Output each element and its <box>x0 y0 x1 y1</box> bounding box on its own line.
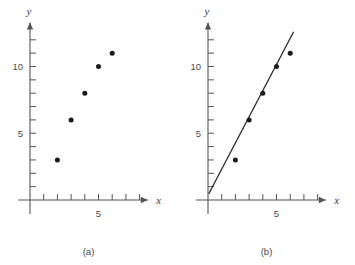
panel-b: 5510xy (b) <box>178 0 355 265</box>
regression-line <box>209 32 294 194</box>
y-axis-arrowhead <box>205 22 211 29</box>
data-point <box>69 117 74 122</box>
x-axis-label: x <box>155 194 161 206</box>
y-axis-label: y <box>204 5 210 17</box>
data-point <box>233 157 238 162</box>
plot-area-b: 5510xy <box>178 0 355 232</box>
y-tick-label: 5 <box>196 128 201 139</box>
x-tick-label: 5 <box>96 208 101 219</box>
x-axis-label: x <box>333 194 339 206</box>
data-point <box>55 157 60 162</box>
x-axis-arrowhead <box>141 197 148 203</box>
x-axis-arrowhead <box>319 197 326 203</box>
y-axis-label: y <box>26 5 32 17</box>
plot-area-a: 5510xy <box>0 0 177 232</box>
data-point <box>82 91 87 96</box>
y-axis-arrowhead <box>27 22 33 29</box>
data-point <box>110 51 115 56</box>
data-point <box>96 64 101 69</box>
data-point <box>288 51 293 56</box>
x-tick-label: 5 <box>274 208 279 219</box>
panel-a: 5510xy (a) <box>0 0 177 265</box>
scatter-plot-figure: 5510xy (a) 5510xy (b) <box>0 0 355 265</box>
y-tick-label: 10 <box>12 61 23 72</box>
panel-a-caption: (a) <box>0 246 177 257</box>
data-point <box>247 117 252 122</box>
panel-b-caption: (b) <box>178 246 355 257</box>
data-point <box>274 64 279 69</box>
y-tick-label: 5 <box>18 128 23 139</box>
y-tick-label: 10 <box>190 61 201 72</box>
data-point <box>260 91 265 96</box>
